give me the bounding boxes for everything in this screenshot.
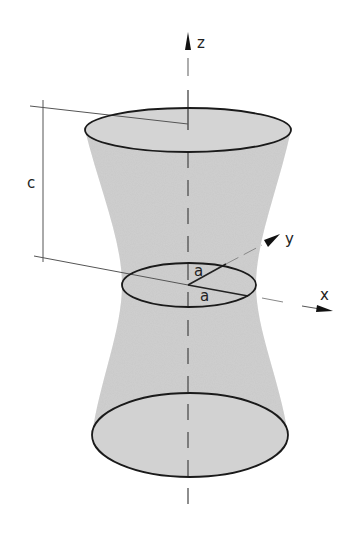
z-axis-label: z bbox=[197, 34, 205, 52]
radius-label-a-y: a bbox=[194, 262, 203, 280]
y-axis-label: y bbox=[285, 230, 294, 248]
z-arrow-icon bbox=[185, 32, 191, 50]
x-axis-label: x bbox=[320, 286, 329, 304]
height-label-c: c bbox=[27, 174, 35, 192]
x-arrow-icon bbox=[316, 305, 333, 312]
radius-label-a-x: a bbox=[200, 287, 209, 305]
hyperboloid-diagram: z c y x a a bbox=[0, 0, 361, 534]
y-arrow-icon bbox=[264, 234, 280, 247]
